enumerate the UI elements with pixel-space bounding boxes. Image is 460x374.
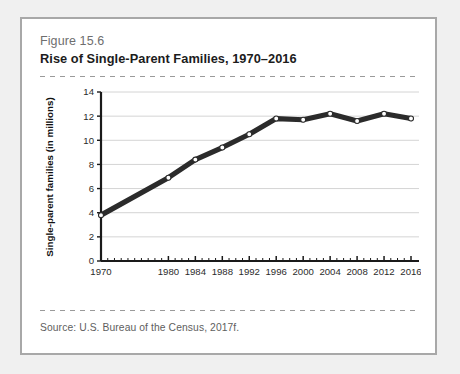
y-tick-label: 0 xyxy=(89,255,94,266)
x-tick-label: 1980 xyxy=(158,266,179,277)
y-tick-label: 2 xyxy=(89,231,94,242)
data-point-marker xyxy=(166,175,171,180)
x-tick-label: 1984 xyxy=(185,266,207,277)
figure-number: Figure 15.6 xyxy=(40,33,417,49)
page-title: Rise of Single-Parent Families, 1970–201… xyxy=(40,51,417,67)
source-note: Source: U.S. Bureau of the Census, 2017f… xyxy=(40,322,239,333)
data-point-marker xyxy=(99,213,104,218)
x-axis-tick-labels: 1970198019841988199219962000200420082012… xyxy=(90,266,421,277)
divider-top xyxy=(40,76,417,77)
y-tick-label: 8 xyxy=(89,159,94,170)
data-point-marker xyxy=(274,116,279,121)
chart-svg: 02468101214 1970198019841988199219962000… xyxy=(40,81,421,313)
data-point-marker xyxy=(301,117,306,122)
gridlines-group xyxy=(101,92,419,237)
x-tick-label: 1996 xyxy=(266,266,287,277)
y-axis-title: Single-parent families (in millions) xyxy=(44,97,55,257)
x-tick-label: 1970 xyxy=(90,266,111,277)
data-point-marker xyxy=(328,111,333,116)
x-tick-label: 1992 xyxy=(239,266,260,277)
x-tick-label: 2012 xyxy=(373,266,394,277)
divider-bottom xyxy=(40,310,417,311)
y-tick-label: 12 xyxy=(83,111,94,122)
figure-card-inner: Figure 15.6 Rise of Single-Parent Famili… xyxy=(22,19,435,353)
x-tick-label: 2004 xyxy=(319,266,341,277)
data-point-marker xyxy=(193,157,198,162)
data-point-marker xyxy=(382,111,387,116)
x-tick-label: 2016 xyxy=(400,266,421,277)
data-point-marker xyxy=(409,116,414,121)
data-point-marker xyxy=(247,132,252,137)
y-tick-label: 14 xyxy=(83,86,94,97)
y-tick-label: 6 xyxy=(89,183,94,194)
figure-card: Figure 15.6 Rise of Single-Parent Famili… xyxy=(20,17,437,355)
x-tick-label: 2000 xyxy=(293,266,314,277)
x-tick-label: 2008 xyxy=(346,266,367,277)
y-tick-label: 10 xyxy=(83,135,94,146)
y-axis-tick-labels: 02468101214 xyxy=(83,86,101,266)
x-tick-label: 1988 xyxy=(212,266,233,277)
line-chart: 02468101214 1970198019841988199219962000… xyxy=(40,81,421,313)
data-point-marker xyxy=(355,118,360,123)
y-tick-label: 4 xyxy=(89,207,95,218)
data-point-marker xyxy=(220,145,225,150)
